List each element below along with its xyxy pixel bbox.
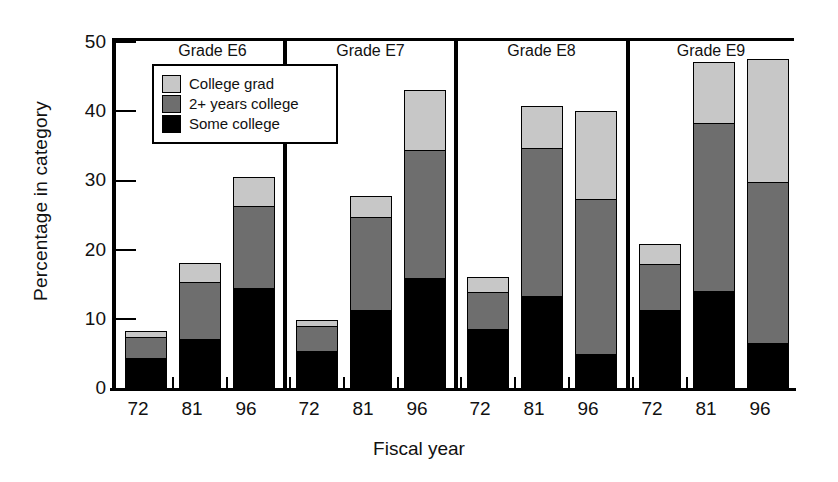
bar-segment-some-college-e6-72 xyxy=(125,358,167,390)
legend: College grad 2+ years college Some colle… xyxy=(152,64,338,144)
x-tick-mark-1 xyxy=(226,377,228,390)
x-tick-label-e8-96: 96 xyxy=(561,398,615,420)
x-tick-label-e8-72: 72 xyxy=(453,398,507,420)
y-tick-label-50: 50 xyxy=(60,32,106,51)
legend-label-some-college: Some college xyxy=(189,116,280,132)
x-tick-label-e9-72: 72 xyxy=(625,398,679,420)
x-tick-mark-7 xyxy=(568,377,570,390)
bar-segment-college-grad-e7-81 xyxy=(350,196,392,217)
legend-label-college-grad: College grad xyxy=(189,76,274,92)
bar-segment-2plus-years-e7-96 xyxy=(404,150,446,278)
bar-segment-some-college-e7-81 xyxy=(350,310,392,390)
x-tick-label-e6-72: 72 xyxy=(111,398,165,420)
x-tick-label-e7-96: 96 xyxy=(390,398,444,420)
bar-e9-81 xyxy=(693,62,735,390)
bar-segment-some-college-e6-81 xyxy=(179,339,221,390)
bar-segment-some-college-e6-96 xyxy=(233,288,275,390)
x-tick-mark-5 xyxy=(460,377,462,390)
bar-e8-72 xyxy=(467,277,509,390)
bar-segment-college-grad-e6-81 xyxy=(179,263,221,283)
bar-e6-96 xyxy=(233,177,275,390)
legend-item-2plus-years: 2+ years college xyxy=(162,95,328,113)
x-tick-label-e8-81: 81 xyxy=(507,398,561,420)
bar-e9-72 xyxy=(639,244,681,390)
bar-segment-2plus-years-e9-72 xyxy=(639,264,681,310)
bar-segment-college-grad-e8-72 xyxy=(467,277,509,292)
x-tick-mark-0 xyxy=(172,377,174,390)
bar-segment-college-grad-e8-81 xyxy=(521,106,563,148)
bar-segment-2plus-years-e8-81 xyxy=(521,148,563,296)
bar-segment-some-college-e8-96 xyxy=(575,354,617,390)
bar-segment-2plus-years-e7-72 xyxy=(296,326,338,351)
y-tick-label-40: 40 xyxy=(60,101,106,120)
legend-item-some-college: Some college xyxy=(162,115,328,133)
x-tick-mark-3 xyxy=(343,377,345,390)
bar-segment-college-grad-e9-96 xyxy=(747,59,789,181)
bar-segment-college-grad-e9-81 xyxy=(693,62,735,123)
bar-segment-some-college-e9-72 xyxy=(639,310,681,390)
bar-segment-some-college-e9-96 xyxy=(747,343,789,390)
x-tick-mark-9 xyxy=(686,377,688,390)
x-tick-mark-8 xyxy=(632,377,634,390)
bar-e7-81 xyxy=(350,196,392,390)
bar-e9-96 xyxy=(747,59,789,390)
legend-label-2plus-years: 2+ years college xyxy=(189,96,299,112)
bar-segment-2plus-years-e6-96 xyxy=(233,206,275,288)
legend-swatch-icon-2plus-years xyxy=(162,95,181,113)
y-tick-label-0: 0 xyxy=(60,378,106,397)
x-tick-mark-6 xyxy=(514,377,516,390)
bar-e8-81 xyxy=(521,106,563,390)
bar-segment-college-grad-e8-96 xyxy=(575,111,617,199)
bar-segment-college-grad-e7-96 xyxy=(404,90,446,150)
legend-swatch-icon-some-college xyxy=(162,115,181,133)
bar-segment-some-college-e8-72 xyxy=(467,329,509,390)
bar-e6-81 xyxy=(179,263,221,390)
legend-item-college-grad: College grad xyxy=(162,75,328,93)
bar-segment-some-college-e7-72 xyxy=(296,351,338,390)
bar-segment-some-college-e7-96 xyxy=(404,278,446,390)
bar-segment-college-grad-e9-72 xyxy=(639,244,681,264)
y-tick-label-30: 30 xyxy=(60,170,106,189)
bar-segment-2plus-years-e8-72 xyxy=(467,292,509,329)
x-tick-label-e6-81: 81 xyxy=(165,398,219,420)
bar-e7-72 xyxy=(296,320,338,390)
bar-segment-college-grad-e6-96 xyxy=(233,177,275,206)
x-tick-label-e9-96: 96 xyxy=(733,398,787,420)
y-tick-label-20: 20 xyxy=(60,240,106,259)
x-axis-title: Fiscal year xyxy=(0,438,838,460)
bar-e6-72 xyxy=(125,331,167,390)
bar-e7-96 xyxy=(404,90,446,390)
legend-swatch-icon-college-grad xyxy=(162,75,181,93)
bar-segment-2plus-years-e8-96 xyxy=(575,199,617,355)
x-tick-mark-4 xyxy=(397,377,399,390)
y-tick-label-10: 10 xyxy=(60,309,106,328)
x-tick-mark-2 xyxy=(289,377,291,390)
x-tick-label-e9-81: 81 xyxy=(679,398,733,420)
bar-segment-2plus-years-e9-81 xyxy=(693,123,735,291)
x-tick-label-e7-81: 81 xyxy=(336,398,390,420)
x-tick-label-e6-96: 96 xyxy=(219,398,273,420)
chart-container: Percentage in category 50 40 30 20 10 0 … xyxy=(0,0,838,482)
bar-segment-some-college-e8-81 xyxy=(521,296,563,390)
y-axis-title: Percentage in category xyxy=(30,36,52,366)
bar-segment-2plus-years-e6-72 xyxy=(125,337,167,358)
x-tick-label-e7-72: 72 xyxy=(282,398,336,420)
bar-segment-2plus-years-e7-81 xyxy=(350,217,392,311)
bar-segment-2plus-years-e6-81 xyxy=(179,282,221,339)
bar-e8-96 xyxy=(575,111,617,390)
bar-segment-some-college-e9-81 xyxy=(693,291,735,390)
bar-segment-2plus-years-e9-96 xyxy=(747,182,789,343)
